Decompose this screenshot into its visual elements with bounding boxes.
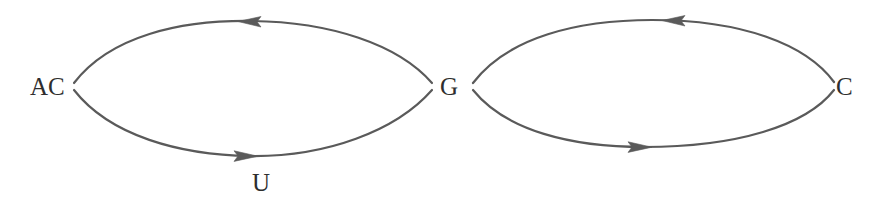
node-label-g: G <box>440 74 458 99</box>
edge-path-g-to-c <box>473 90 834 147</box>
arrowhead-ac-to-g <box>234 151 258 162</box>
node-label-c: C <box>836 74 853 99</box>
graph-svg <box>0 0 888 202</box>
edge-path-ac-to-g <box>74 90 432 156</box>
edge-group-g-c <box>473 16 834 153</box>
edge-path-c-to-g <box>473 20 834 83</box>
node-label-ac: AC <box>30 74 65 99</box>
edge-label-u: U <box>252 170 270 195</box>
edge-path-g-to-ac <box>74 21 432 83</box>
diagram-canvas: AC G C U <box>0 0 888 202</box>
arrowhead-g-to-c <box>628 142 652 153</box>
edge-group-ac-g <box>74 17 432 162</box>
